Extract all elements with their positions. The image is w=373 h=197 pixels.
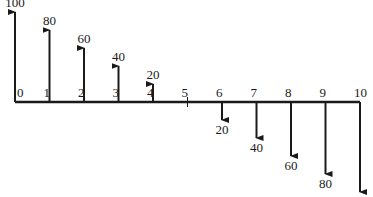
cash-flow-amount-9: 80	[319, 176, 332, 191]
period-label-9: 9	[320, 85, 327, 100]
period-label-7: 7	[251, 85, 258, 100]
cash-flow-amount-7: 40	[250, 140, 263, 155]
cash-flow-diagram: 012345678910 1008060402020406080100	[0, 0, 373, 197]
cash-flow-amount-2: 60	[78, 31, 91, 46]
period-label-6: 6	[216, 85, 223, 100]
cash-flow-amount-10: 100	[350, 194, 370, 197]
cash-flow-amount-8: 60	[285, 158, 298, 173]
period-label-8: 8	[285, 85, 292, 100]
cash-flow-amount-4: 20	[147, 67, 160, 82]
cash-flow-amount-6: 20	[216, 122, 229, 137]
cash-flow-amount-0: 100	[5, 0, 25, 10]
period-label-0: 0	[17, 85, 24, 100]
cash-flow-amount-3: 40	[112, 49, 125, 64]
cash-flow-amount-1: 80	[43, 13, 56, 28]
period-label-10: 10	[354, 85, 367, 100]
